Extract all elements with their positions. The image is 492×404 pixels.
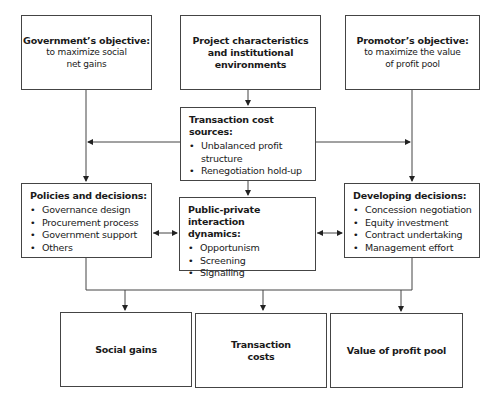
policy-item: Others bbox=[30, 242, 151, 255]
government-objective-text-2: net gains bbox=[67, 59, 107, 71]
transaction-costs-label-2: costs bbox=[247, 351, 274, 363]
transaction-source-item: Unbalanced profit structure bbox=[189, 140, 296, 165]
government-objective-text-1: to maximize social bbox=[46, 47, 126, 59]
project-title-1: Project characteristics bbox=[193, 35, 309, 47]
value-of-profit-pool-box: Value of profit pool bbox=[330, 313, 463, 388]
interaction-item: Opportunism bbox=[188, 242, 315, 255]
transaction-costs-box: Transaction costs bbox=[195, 313, 327, 388]
transaction-source-item: Renegotiation hold-up bbox=[189, 165, 315, 178]
transaction-cost-sources-box: Transaction cost sources: Unbalanced pro… bbox=[180, 107, 316, 181]
project-title-2: and institutional bbox=[208, 47, 293, 59]
value-profit-pool-label: Value of profit pool bbox=[347, 345, 446, 357]
project-characteristics-box: Project characteristics and institutiona… bbox=[180, 15, 321, 90]
developing-decisions-box: Developing decisions: Concession negotia… bbox=[344, 183, 480, 258]
project-title-3: environments bbox=[215, 59, 287, 71]
interaction-title-2: dynamics: bbox=[188, 228, 315, 240]
government-objective-box: Government’s objective: to maximize soci… bbox=[21, 15, 152, 90]
promotor-objective-text-2: of profit pool bbox=[385, 59, 440, 71]
interaction-title-1: Public-private interaction bbox=[188, 204, 315, 228]
policy-item: Procurement process bbox=[30, 217, 151, 230]
promotor-objective-box: Promotor’s objective: to maximize the va… bbox=[345, 15, 480, 90]
policy-item: Governance design bbox=[30, 204, 151, 217]
interaction-item: Screening bbox=[188, 255, 315, 268]
developing-item: Concession negotiation bbox=[353, 204, 479, 217]
public-private-interaction-box: Public-private interaction dynamics: Opp… bbox=[179, 197, 316, 271]
transaction-costs-label-1: Transaction bbox=[231, 339, 291, 351]
social-gains-box: Social gains bbox=[60, 312, 192, 387]
developing-item: Contract undertaking bbox=[353, 229, 479, 242]
policies-decisions-box: Policies and decisions: Governance desig… bbox=[21, 183, 152, 258]
policies-title: Policies and decisions: bbox=[30, 190, 151, 202]
developing-item: Management effort bbox=[353, 242, 479, 255]
promotor-objective-title: Promotor’s objective: bbox=[356, 35, 468, 47]
policy-item: Government support bbox=[30, 229, 151, 242]
promotor-objective-text-1: to maximize the value bbox=[364, 47, 460, 59]
developing-item: Equity investment bbox=[353, 217, 479, 230]
transaction-sources-title: Transaction cost sources: bbox=[189, 114, 315, 138]
interaction-item: Signalling bbox=[188, 267, 315, 280]
social-gains-label: Social gains bbox=[95, 344, 157, 356]
government-objective-title: Government’s objective: bbox=[23, 35, 150, 47]
developing-title: Developing decisions: bbox=[353, 190, 479, 202]
